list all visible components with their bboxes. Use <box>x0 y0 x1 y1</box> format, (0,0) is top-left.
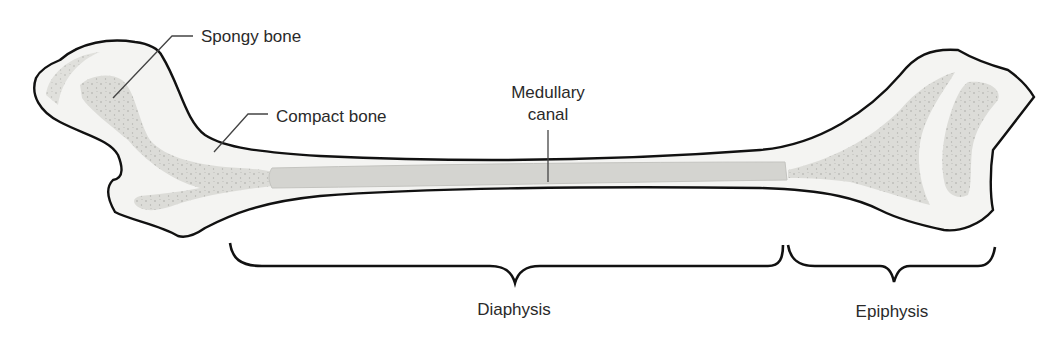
label-spongy-bone: Spongy bone <box>201 27 301 46</box>
epiphysis-brace <box>788 245 995 282</box>
bone-diagram: Spongy bone Compact bone Medullary canal… <box>0 0 1059 342</box>
label-medullary-canal-line2: canal <box>528 105 569 124</box>
label-compact-bone: Compact bone <box>276 107 387 126</box>
label-medullary-canal-line1: Medullary <box>511 83 585 102</box>
label-diaphysis: Diaphysis <box>477 300 551 319</box>
diaphysis-brace <box>230 243 783 283</box>
label-epiphysis: Epiphysis <box>856 302 929 321</box>
